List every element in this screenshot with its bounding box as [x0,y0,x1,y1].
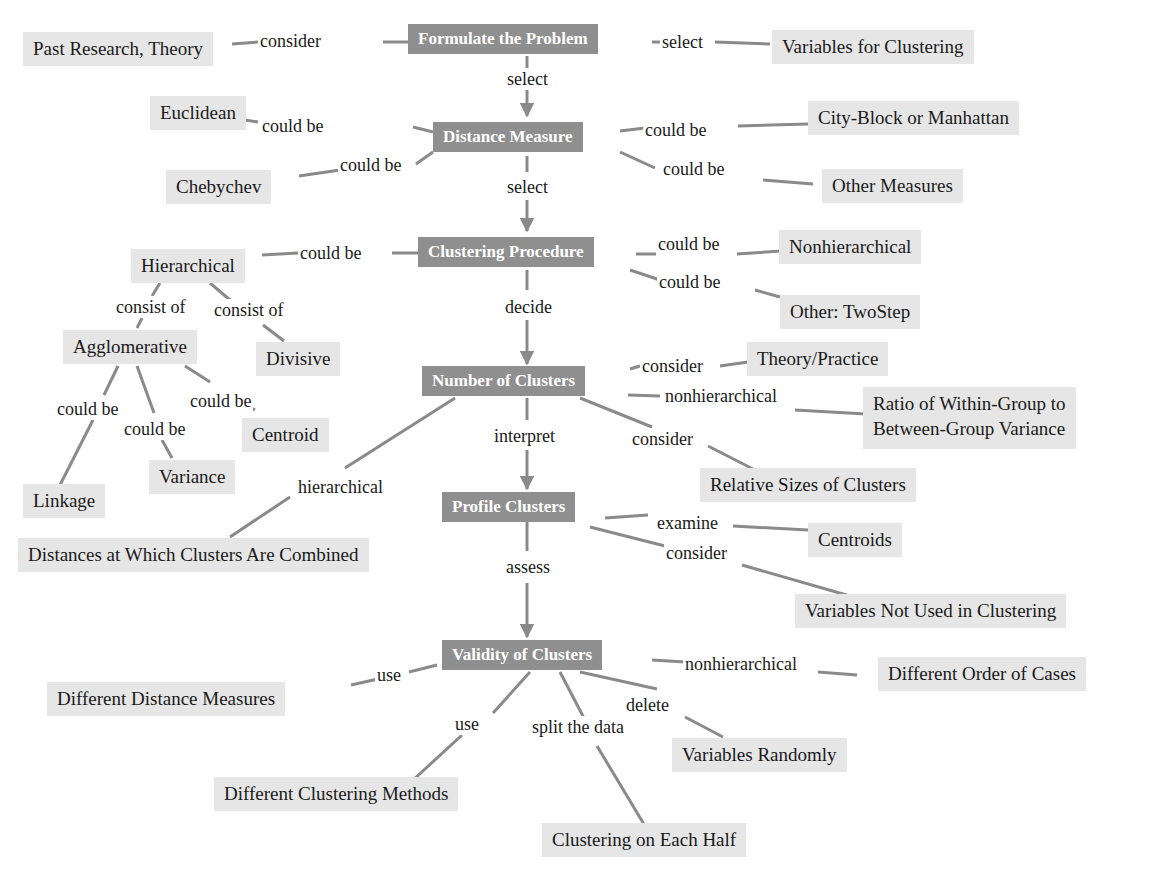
node-other-twostep: Other: TwoStep [780,295,920,329]
node-different-distance: Different Distance Measures [47,682,285,716]
node-variables-not-used: Variables Not Used in Clustering [795,594,1066,628]
node-city-block: City-Block or Manhattan [808,101,1019,135]
node-hierarchical: Hierarchical [131,249,245,283]
link-select-1: select [505,68,550,90]
link-decide: decide [503,296,554,318]
link-select-2: select [505,176,550,198]
node-euclidean: Euclidean [150,96,246,130]
edge-split-data: split the data [530,716,626,738]
node-centroids: Centroids [808,523,902,557]
edge-consist-of-agg: consist of [114,296,188,318]
node-distances-combined: Distances at Which Clusters Are Combined [18,538,369,572]
edge-use-methods: use [453,713,481,735]
step-number-of-clusters: Number of Clusters [422,366,585,396]
edge-hierarchical-dist: hierarchical [296,476,385,498]
edge-consider-vars: consider [664,542,729,564]
edge-select-vars: select [660,31,705,53]
node-divisive: Divisive [256,342,340,376]
link-interpret: interpret [492,425,557,447]
edge-consider-past: consider [258,30,323,52]
node-variance: Variance [149,460,235,494]
edge-could-be-euclid: could be [260,115,325,137]
node-ratio-line1: Ratio of Within-Group to [873,391,1066,416]
node-each-half: Clustering on Each Half [542,823,746,857]
edge-could-be-cheby: could be [338,154,403,176]
node-ratio-line2: Between-Group Variance [873,416,1066,441]
step-validity-of-clusters: Validity of Clusters [442,640,602,670]
link-assess: assess [504,556,552,578]
node-agglomerative: Agglomerative [63,330,197,364]
edge-could-be-nonhier: could be [656,233,721,255]
node-centroid: Centroid [242,418,329,452]
step-clustering-procedure: Clustering Procedure [418,237,594,267]
edge-could-be-variance: could be [122,418,187,440]
node-variables-for-clustering: Variables for Clustering [772,30,974,64]
edge-nonhierarchical-order: nonhierarchical [683,653,799,675]
edge-consider-sizes: consider [630,428,695,450]
node-nonhierarchical: Nonhierarchical [779,230,921,264]
node-variables-randomly: Variables Randomly [672,738,847,772]
node-past-research: Past Research, Theory [23,32,213,66]
step-profile-clusters: Profile Clusters [442,492,575,522]
node-different-methods: Different Clustering Methods [214,777,458,811]
edge-could-be-centroid: could be [188,390,253,412]
edge-could-be-other: could be [661,158,726,180]
edge-delete-vars: delete [624,694,671,716]
step-distance-measure: Distance Measure [433,122,583,152]
edge-could-be-city: could be [643,119,708,141]
edge-could-be-hier: could be [298,242,363,264]
edge-could-be-linkage: could be [55,398,120,420]
node-different-order: Different Order of Cases [878,657,1086,691]
edge-consist-of-div: consist of [212,299,286,321]
node-relative-sizes: Relative Sizes of Clusters [700,468,916,502]
edge-consider-theory: consider [640,355,705,377]
edge-use-distance: use [375,664,403,686]
edge-examine-centroids: examine [655,512,720,534]
node-ratio-variance: Ratio of Within-Group to Between-Group V… [863,387,1076,449]
edge-could-be-twostep: could be [657,271,722,293]
edge-nonhierarchical-ratio: nonhierarchical [663,385,779,407]
node-theory-practice: Theory/Practice [747,342,888,376]
node-chebychev: Chebychev [166,170,271,204]
node-other-measures: Other Measures [822,169,963,203]
step-formulate-problem: Formulate the Problem [408,24,598,54]
node-linkage: Linkage [23,484,105,518]
